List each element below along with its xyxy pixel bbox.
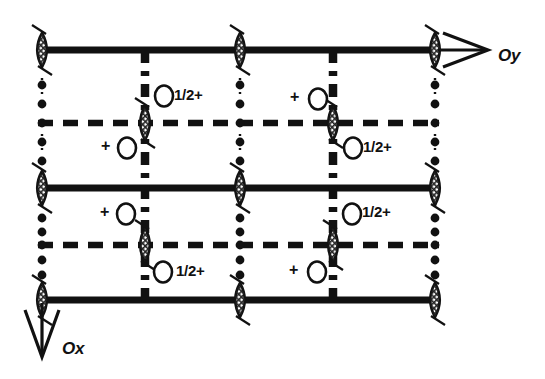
- position-label-p6: 1/2+: [362, 203, 390, 220]
- position-label-p8: +: [289, 261, 298, 279]
- symmetry-diagram-svg: [0, 0, 545, 379]
- axis-arrows: [25, 33, 488, 357]
- axis-label-oy: Oy: [498, 46, 520, 66]
- figure-canvas: Oy Ox 1/2+++1/2++1/2+1/2++: [0, 0, 545, 379]
- position-label-p1: 1/2+: [174, 86, 202, 103]
- position-label-p7: 1/2+: [176, 262, 204, 279]
- position-label-p3: +: [101, 137, 110, 155]
- two-fold-axis-lenses: [32, 25, 445, 325]
- position-label-p5: +: [100, 203, 109, 221]
- position-label-p4: 1/2+: [363, 138, 391, 155]
- axis-label-ox: Ox: [62, 339, 84, 359]
- position-label-p2: +: [290, 88, 299, 106]
